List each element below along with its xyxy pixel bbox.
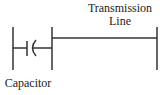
capacitor-label: Capacitor bbox=[0, 77, 56, 90]
